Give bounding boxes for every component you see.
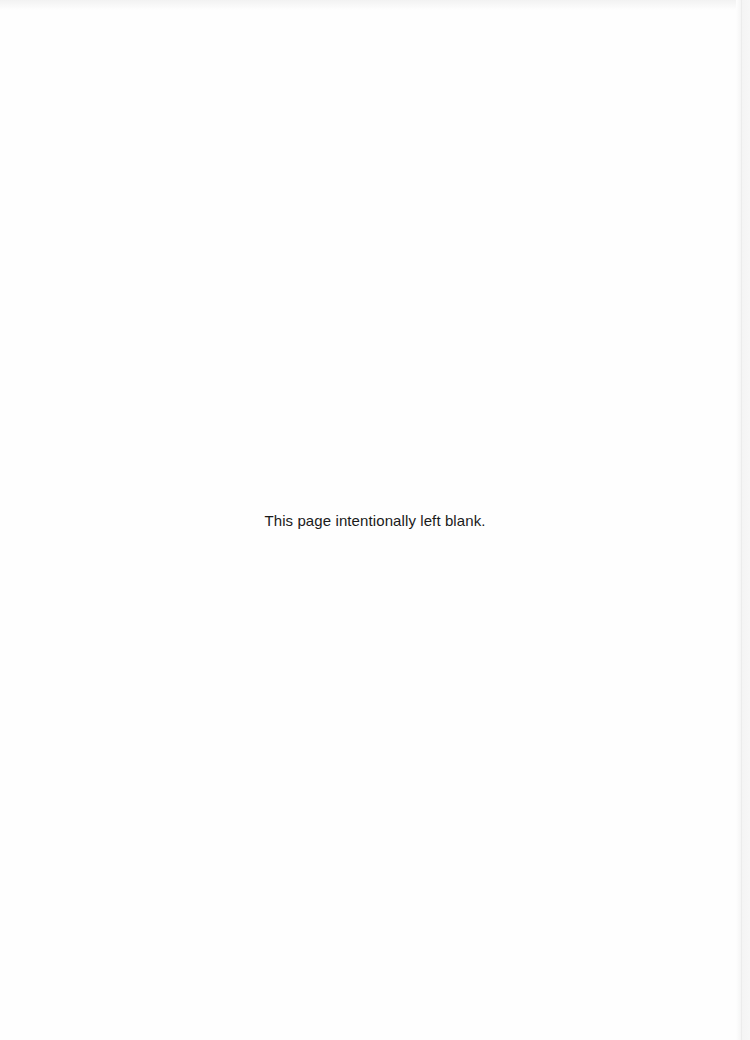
document-page: This page intentionally left blank. [0,0,750,1040]
blank-page-notice: This page intentionally left blank. [0,512,750,529]
page-top-edge [0,0,750,10]
